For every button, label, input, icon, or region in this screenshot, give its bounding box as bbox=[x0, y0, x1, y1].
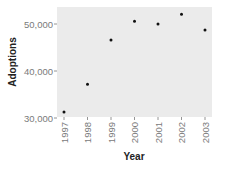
data-point bbox=[86, 83, 89, 86]
plot-panel bbox=[57, 7, 212, 117]
y-tick-label: 30,000 bbox=[24, 113, 53, 124]
scatter-chart: 30,00040,00050,000 199719981999200020012… bbox=[0, 0, 225, 170]
x-tick-label: 2000 bbox=[129, 122, 140, 143]
data-point bbox=[157, 23, 160, 26]
x-tick-label: 1999 bbox=[106, 122, 117, 143]
data-point bbox=[133, 20, 136, 23]
data-point bbox=[180, 13, 183, 16]
y-axis: 30,00040,00050,000 bbox=[24, 19, 57, 124]
y-tick-label: 40,000 bbox=[24, 66, 53, 77]
x-tick-label: 1997 bbox=[59, 122, 70, 143]
y-tick-label: 50,000 bbox=[24, 19, 53, 30]
x-tick-label: 2003 bbox=[200, 122, 211, 143]
x-axis: 1997199819992000200120022003 bbox=[59, 117, 211, 143]
data-point bbox=[204, 29, 207, 32]
data-point bbox=[110, 38, 113, 41]
y-axis-title: Adoptions bbox=[7, 37, 18, 87]
x-tick-label: 2001 bbox=[153, 122, 164, 143]
x-tick-label: 2002 bbox=[176, 122, 187, 143]
x-tick-label: 1998 bbox=[82, 122, 93, 143]
x-axis-title: Year bbox=[123, 151, 144, 162]
data-point bbox=[63, 110, 66, 113]
